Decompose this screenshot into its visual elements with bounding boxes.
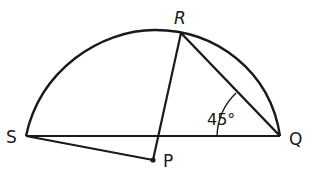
point-P-dot [150, 157, 155, 162]
segment-SP [26, 136, 153, 160]
label-Q: Q [289, 129, 302, 149]
circle-arc [26, 30, 280, 136]
label-S: S [6, 127, 17, 147]
label-R: R [174, 8, 186, 28]
geometry-diagram: S Q R P 45° [0, 0, 316, 174]
diagram-canvas: S Q R P 45° [0, 0, 316, 174]
angle-label: 45° [207, 110, 235, 129]
segment-RP [153, 33, 181, 160]
label-P: P [163, 151, 173, 171]
